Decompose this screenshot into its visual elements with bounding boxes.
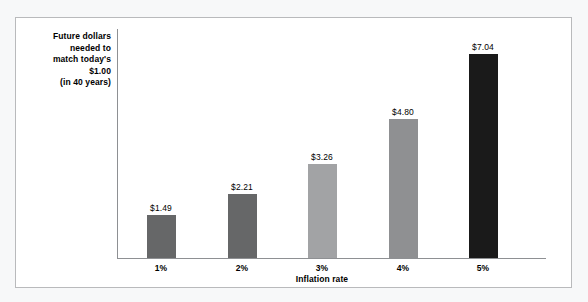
x-axis-tick-label: 3% — [290, 263, 354, 273]
bar[interactable] — [469, 54, 498, 258]
bar-group: $7.04 — [451, 42, 515, 259]
x-axis-tick-label: 4% — [371, 263, 435, 273]
bar-group: $2.21 — [210, 182, 274, 259]
y-axis-label-line-2: needed to — [26, 43, 111, 55]
x-axis-tick-label: 2% — [210, 263, 274, 273]
x-axis-tick-label: 1% — [129, 263, 193, 273]
y-axis-label-line-5: (in 40 years) — [26, 77, 111, 89]
x-axis-tick-label: 5% — [451, 263, 515, 273]
bar-value-label: $7.04 — [451, 42, 515, 52]
y-axis-label-line-4: $1.00 — [26, 66, 111, 78]
y-axis-label-line-1: Future dollars — [26, 31, 111, 43]
bar-group: $4.80 — [371, 107, 435, 259]
bar[interactable] — [389, 119, 418, 258]
bar-group: $3.26 — [290, 152, 354, 259]
bar-value-label: $3.26 — [290, 152, 354, 162]
bar-value-label: $2.21 — [210, 182, 274, 192]
bar-chart: Future dollars needed to match today's $… — [16, 18, 573, 289]
bar[interactable] — [147, 215, 176, 258]
y-axis-line — [117, 29, 118, 259]
y-axis-label-line-3: match today's — [26, 54, 111, 66]
bar[interactable] — [228, 194, 257, 258]
bar-value-label: $1.49 — [129, 203, 193, 213]
bar[interactable] — [308, 164, 337, 258]
chart-panel: Future dollars needed to match today's $… — [15, 17, 572, 288]
x-axis-title-text: Inflation rate — [290, 274, 354, 284]
bar-value-label: $4.80 — [371, 107, 435, 117]
bar-group: $1.49 — [129, 203, 193, 259]
y-axis-label: Future dollars needed to match today's $… — [26, 31, 111, 89]
x-axis-line — [117, 258, 546, 259]
